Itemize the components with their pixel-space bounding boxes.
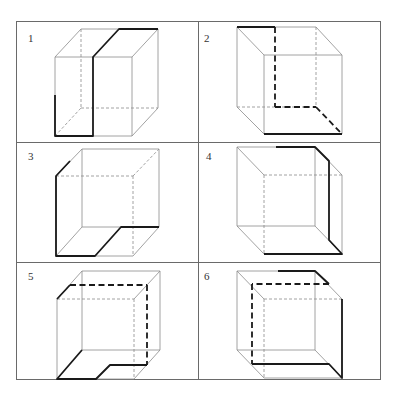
panel-3-path (56, 161, 159, 256)
panel-3-label: 3 (28, 150, 34, 162)
panel-5-label: 5 (28, 270, 34, 282)
panel-2-label: 2 (204, 32, 210, 44)
cube-puzzle-figure (0, 0, 396, 399)
panel-6-label: 6 (204, 270, 210, 282)
panel-3-cube (56, 149, 159, 256)
panel-2-cube (237, 27, 342, 134)
panel-6-path (252, 271, 342, 378)
panel-5-cube (57, 271, 160, 379)
panel-1-cube (55, 29, 158, 136)
grid-frame (17, 22, 381, 380)
panel-6-cube (237, 271, 342, 378)
panel-1-path (55, 29, 158, 136)
panel-1-label: 1 (28, 32, 34, 44)
panel-4-label: 4 (206, 150, 212, 162)
panel-4-cube (237, 147, 342, 254)
